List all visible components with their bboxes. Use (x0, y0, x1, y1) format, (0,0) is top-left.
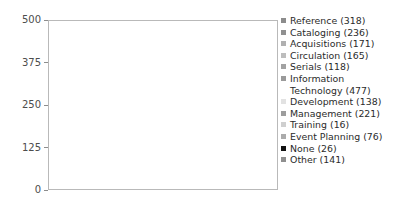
legend-swatch-icon (281, 99, 286, 104)
legend-swatch-icon (281, 111, 286, 116)
bar-series (49, 21, 277, 189)
legend-label: Acquisitions (171) (290, 38, 374, 50)
legend-label: None (26) (290, 143, 337, 155)
legend-label: Serials (118) (290, 61, 350, 73)
legend-label: Management (221) (290, 108, 380, 120)
legend-label: Event Planning (76) (290, 131, 382, 143)
legend-item[interactable]: Information Technology (477) (281, 73, 395, 96)
legend-item[interactable]: None (26) (281, 143, 395, 155)
legend-item[interactable]: Serials (118) (281, 61, 395, 73)
legend-swatch-icon (281, 146, 286, 151)
legend-label: Development (138) (290, 96, 381, 108)
legend-item[interactable]: Acquisitions (171) (281, 38, 395, 50)
plot-area (48, 20, 278, 190)
legend-label: Other (141) (290, 154, 345, 166)
y-tick-label: 0 (35, 185, 44, 195)
y-tick-label: 500 (22, 15, 44, 25)
y-tick-label: 250 (22, 100, 44, 110)
legend-swatch-icon (281, 134, 286, 139)
legend-swatch-icon (281, 30, 286, 35)
legend-label: Reference (318) (290, 15, 365, 27)
legend-item[interactable]: Development (138) (281, 96, 395, 108)
legend-swatch-icon (281, 53, 286, 58)
legend-item[interactable]: Circulation (165) (281, 50, 395, 62)
legend-item[interactable]: Management (221) (281, 108, 395, 120)
legend-item[interactable]: Other (141) (281, 154, 395, 166)
legend-swatch-icon (281, 18, 286, 23)
legend-item[interactable]: Training (16) (281, 119, 395, 131)
legend-swatch-icon (281, 76, 286, 81)
legend-swatch-icon (281, 157, 286, 162)
legend-swatch-icon (281, 41, 286, 46)
y-tick-label: 125 (22, 143, 44, 153)
legend-item[interactable]: Cataloging (236) (281, 27, 395, 39)
legend-item[interactable]: Event Planning (76) (281, 131, 395, 143)
bar-chart-figure: 500 375 250 125 0 Reference (318)Catalog… (0, 0, 395, 212)
y-axis: 500 375 250 125 0 (0, 20, 48, 190)
legend: Reference (318)Cataloging (236)Acquisiti… (281, 15, 395, 166)
legend-item[interactable]: Reference (318) (281, 15, 395, 27)
legend-swatch-icon (281, 64, 286, 69)
legend-label: Training (16) (290, 119, 349, 131)
legend-label: Information Technology (477) (290, 73, 395, 96)
legend-swatch-icon (281, 122, 286, 127)
legend-label: Cataloging (236) (290, 27, 369, 39)
y-tick-label: 375 (22, 58, 44, 68)
legend-label: Circulation (165) (290, 50, 368, 62)
